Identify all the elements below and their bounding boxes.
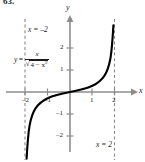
radicand-text: 4 − x: [30, 61, 44, 69]
graph-figure: 63.: [0, 0, 145, 162]
y-tick-label-2: 2: [60, 44, 64, 51]
x-tick-label-1: 1: [90, 97, 94, 104]
asymptote-label-positive: x = 2: [96, 141, 112, 149]
x-tick-label-neg2: –2: [22, 97, 29, 104]
equation-fraction: x √ 4 − x2: [25, 51, 50, 69]
equation-denominator: √ 4 − x2: [25, 60, 50, 69]
x-axis-name: x: [139, 87, 143, 95]
equation-numerator: x: [32, 51, 41, 59]
y-axis: [67, 15, 74, 152]
radical-group: √ 4 − x2: [26, 60, 49, 69]
equation-lhs: y: [14, 55, 17, 64]
equation-equals-sign: =: [19, 55, 23, 64]
y-axis-name: y: [66, 4, 70, 12]
x-tick-label-2: 2: [112, 97, 116, 104]
radicand-exponent: 2: [45, 59, 48, 64]
y-tick-label-neg1: –1: [56, 110, 63, 117]
function-equation-label: y = x √ 4 − x2: [14, 51, 49, 69]
y-tick-label-1: 1: [60, 66, 64, 73]
radicand: 4 − x2: [29, 60, 48, 69]
x-tick-label-neg1: –1: [44, 97, 51, 104]
asymptote-label-negative: x = –2: [28, 26, 48, 34]
y-tick-label-neg2: –2: [56, 132, 63, 139]
plot-canvas: [0, 0, 145, 162]
